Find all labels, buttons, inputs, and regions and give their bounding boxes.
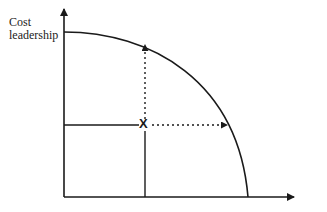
y-axis-label-line2: leadership [9,29,58,42]
current-position-marker: X [139,117,148,131]
frontier-curve [64,32,248,197]
y-axis-label: Cost leadership [9,16,58,42]
